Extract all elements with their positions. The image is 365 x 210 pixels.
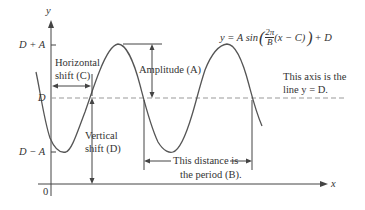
axis-note-label-2: line y = D. xyxy=(283,84,328,96)
equation: y = A sin ( 2π B (x − C) ) + D xyxy=(220,28,332,47)
vertical-shift-label-2: shift (D) xyxy=(85,143,121,155)
y-axis-label: y xyxy=(46,5,51,17)
tick-d-minus-a: D − A xyxy=(19,146,45,158)
period-label-2: the period (B). xyxy=(180,169,242,181)
axis-note-label-1: This axis is the xyxy=(283,71,346,83)
horizontal-shift-label-2: shift (C) xyxy=(55,70,90,82)
x-axis-arrow-icon xyxy=(320,181,328,187)
period-label-1: This distance is xyxy=(173,155,238,167)
horizontal-shift-label-1: Horizontal xyxy=(55,57,100,69)
y-axis-arrow-icon xyxy=(48,20,54,28)
tick-d-plus-a: D + A xyxy=(19,39,45,51)
tick-d: D xyxy=(38,92,46,104)
vertical-shift-label-1: Vertical xyxy=(85,130,118,142)
amplitude-label: Amplitude (A) xyxy=(139,64,201,76)
origin-label: 0 xyxy=(43,186,48,198)
x-axis-label: x xyxy=(331,178,336,190)
